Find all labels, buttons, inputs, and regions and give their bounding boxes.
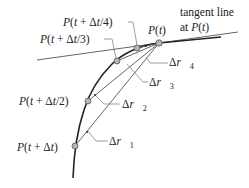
delta-r4-marker — [145, 45, 147, 47]
point-p-t-dt2 — [85, 98, 91, 104]
delta-r4-label: Δr⃗4 — [169, 56, 194, 71]
delta-r1-leader — [88, 131, 108, 141]
delta-r4-leader — [146, 57, 168, 63]
tangent-line-bold-segment — [159, 37, 221, 43]
point-p-t-dt4 — [134, 45, 140, 51]
p-t-dt-label: P(t + Δt) — [16, 141, 58, 154]
p-t-label: P(t) — [147, 24, 166, 37]
p-t-dt2-label: P(t + Δt/2) — [18, 95, 69, 108]
p4-leader — [128, 22, 137, 45]
tangent-line-label-1: tangent line — [180, 6, 234, 19]
delta-r3-label: Δr⃗3 — [149, 76, 174, 91]
p-t-dt3-label: P(t + Δt/3) — [39, 33, 90, 46]
point-p-t-dt — [72, 143, 78, 149]
delta-r2-leader — [96, 96, 120, 104]
delta-r1-marker — [86, 131, 88, 133]
delta-r2-label: Δr⃗2 — [122, 98, 147, 113]
delta-r1-label: Δr⃗1 — [109, 135, 134, 150]
delta-r2-marker — [94, 94, 96, 96]
point-p-t — [156, 40, 162, 46]
p-t-dt4-label: P(t + Δt/4) — [62, 16, 113, 29]
point-p-t-dt3 — [114, 58, 120, 64]
diagram-canvas: tangent line at P(t) P(t) P(t + Δt/4) P(… — [0, 0, 249, 188]
tangent-line-label-2: at P(t) — [180, 21, 209, 34]
p3-leader — [104, 39, 116, 58]
